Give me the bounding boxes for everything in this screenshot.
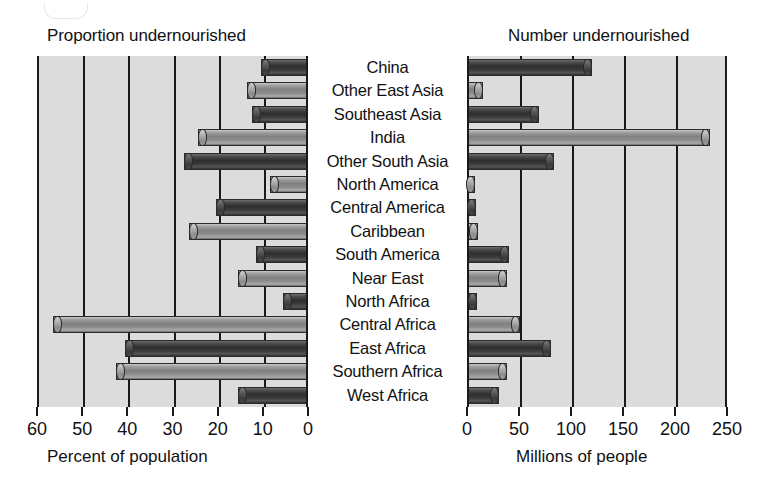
axis-tick-label: 60 bbox=[27, 419, 47, 440]
bar bbox=[283, 293, 306, 310]
category-label: Other East Asia bbox=[312, 79, 463, 102]
axis-tick-label: 250 bbox=[712, 419, 742, 440]
bar-end-cap bbox=[252, 106, 261, 123]
left-axis-title: Percent of population bbox=[47, 447, 208, 467]
bar bbox=[469, 270, 507, 287]
axis-tick bbox=[518, 407, 520, 416]
bar-row bbox=[39, 267, 306, 290]
bar-row bbox=[39, 337, 306, 360]
axis-tick-label: 100 bbox=[556, 419, 586, 440]
bar-row bbox=[39, 243, 306, 266]
bar-end-cap bbox=[542, 340, 551, 357]
bar bbox=[469, 82, 483, 99]
category-label-column: ChinaOther East AsiaSoutheast AsiaIndiaO… bbox=[312, 56, 463, 407]
bar-row bbox=[39, 103, 306, 126]
bar-end-cap bbox=[468, 293, 477, 310]
axis-tick bbox=[674, 407, 676, 416]
bar-row bbox=[39, 56, 306, 79]
bar-end-cap bbox=[469, 223, 478, 240]
bar-row bbox=[469, 360, 725, 383]
bar-end-cap bbox=[216, 199, 225, 216]
axis-tick bbox=[622, 407, 624, 416]
bar-end-cap bbox=[189, 223, 198, 240]
category-label: North America bbox=[312, 173, 463, 196]
bar-row bbox=[469, 290, 725, 313]
axis-tick bbox=[726, 407, 728, 416]
bar-end-cap bbox=[530, 106, 539, 123]
right-panel-title: Number undernourished bbox=[508, 26, 689, 46]
undernourishment-figure: Proportion undernourished Number underno… bbox=[0, 0, 775, 494]
axis-tick-label: 30 bbox=[162, 419, 182, 440]
category-label: Southern Africa bbox=[312, 360, 463, 383]
axis-tick bbox=[217, 407, 219, 416]
bar-end-cap bbox=[467, 199, 476, 216]
bar-row bbox=[469, 126, 725, 149]
bar-row bbox=[39, 196, 306, 219]
bar bbox=[270, 176, 306, 193]
left-panel-title: Proportion undernourished bbox=[47, 26, 246, 46]
category-label: Central Africa bbox=[312, 313, 463, 336]
bar-end-cap bbox=[53, 316, 62, 333]
axis-tick bbox=[307, 407, 309, 416]
bar bbox=[469, 387, 499, 404]
bar bbox=[53, 316, 306, 333]
bar-row bbox=[469, 56, 725, 79]
category-label: Southeast Asia bbox=[312, 103, 463, 126]
bar-row bbox=[469, 220, 725, 243]
category-label: South America bbox=[312, 243, 463, 266]
bar-end-cap bbox=[116, 363, 125, 380]
bar bbox=[238, 270, 306, 287]
bar-row bbox=[469, 313, 725, 336]
bar bbox=[469, 106, 539, 123]
bar-end-cap bbox=[184, 153, 193, 170]
axis-tick bbox=[81, 407, 83, 416]
bar-end-cap bbox=[701, 129, 710, 146]
axis-tick-label: 10 bbox=[253, 419, 273, 440]
axis-tick-label: 200 bbox=[660, 419, 690, 440]
category-label: North Africa bbox=[312, 290, 463, 313]
bar bbox=[469, 176, 475, 193]
bar-end-cap bbox=[247, 82, 256, 99]
bar-end-cap bbox=[498, 363, 507, 380]
bar bbox=[469, 223, 478, 240]
bar-end-cap bbox=[490, 387, 499, 404]
axis-tick bbox=[466, 407, 468, 416]
bar bbox=[256, 246, 306, 263]
axis-tick-label: 50 bbox=[72, 419, 92, 440]
category-label: India bbox=[312, 126, 463, 149]
axis-tick bbox=[126, 407, 128, 416]
number-plot-area bbox=[467, 56, 727, 407]
bar bbox=[469, 129, 710, 146]
bar bbox=[252, 106, 306, 123]
bar-row bbox=[469, 243, 725, 266]
bar-end-cap bbox=[500, 246, 509, 263]
scan-artifact bbox=[44, 4, 88, 19]
bar-row bbox=[469, 79, 725, 102]
bar-row bbox=[469, 103, 725, 126]
bar bbox=[469, 59, 592, 76]
category-label: Near East bbox=[312, 267, 463, 290]
bar-row bbox=[39, 79, 306, 102]
bar-end-cap bbox=[583, 59, 592, 76]
bar-row bbox=[39, 290, 306, 313]
bar-row bbox=[39, 126, 306, 149]
bar-end-cap bbox=[261, 59, 270, 76]
bar-row bbox=[469, 196, 725, 219]
bar-end-cap bbox=[198, 129, 207, 146]
bar-row bbox=[39, 173, 306, 196]
bar-end-cap bbox=[270, 176, 279, 193]
axis-tick-label: 50 bbox=[509, 419, 529, 440]
bar-row bbox=[39, 313, 306, 336]
axis-tick-label: 0 bbox=[303, 419, 313, 440]
bar bbox=[469, 363, 507, 380]
bar bbox=[469, 316, 520, 333]
axis-tick-label: 0 bbox=[462, 419, 472, 440]
bar bbox=[125, 340, 306, 357]
axis-tick-label: 40 bbox=[117, 419, 137, 440]
bar-row bbox=[469, 150, 725, 173]
bar bbox=[469, 153, 554, 170]
bar-end-cap bbox=[474, 82, 483, 99]
bar bbox=[469, 199, 476, 216]
axis-tick bbox=[570, 407, 572, 416]
bar bbox=[189, 223, 306, 240]
